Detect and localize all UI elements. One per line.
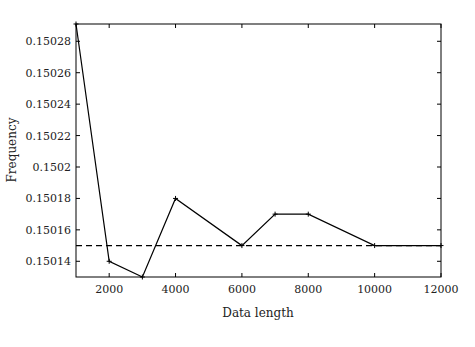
y-tick-label: 0.15014 (26, 255, 72, 268)
x-tick-label: 2000 (95, 283, 123, 296)
y-tick-label: 0.15018 (26, 192, 72, 205)
x-tick-label: 12000 (424, 283, 459, 296)
plot-border (76, 24, 441, 277)
plot-frame (76, 24, 441, 277)
y-tick-label: 0.15016 (26, 224, 72, 237)
y-tick-label: 0.1502 (33, 161, 72, 174)
data-line (76, 24, 441, 277)
x-tick-label: 8000 (294, 283, 322, 296)
data-series (74, 22, 444, 280)
tick-labels: 200040006000800010000120000.150140.15016… (26, 35, 459, 296)
x-tick-label: 10000 (357, 283, 392, 296)
line-chart: 200040006000800010000120000.150140.15016… (0, 0, 475, 347)
x-axis-label: Data length (222, 306, 294, 320)
y-tick-label: 0.15026 (26, 67, 72, 80)
y-tick-label: 0.15024 (26, 98, 72, 111)
y-axis-label: Frequency (5, 117, 19, 182)
x-tick-label: 4000 (162, 283, 190, 296)
y-tick-label: 0.15028 (26, 35, 72, 48)
x-tick-label: 6000 (228, 283, 256, 296)
axis-ticks (76, 24, 441, 277)
y-tick-label: 0.15022 (26, 130, 72, 143)
